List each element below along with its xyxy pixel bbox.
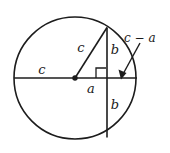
label-c-minus-a: c − a bbox=[124, 31, 156, 45]
label-a: a bbox=[87, 81, 95, 96]
annotation-arrow-shaft bbox=[123, 43, 141, 75]
label-b-upper: b bbox=[111, 42, 119, 57]
geometry-figure: c c b b a c − a bbox=[0, 0, 170, 153]
label-c-radius: c bbox=[77, 40, 85, 55]
right-angle-marker bbox=[96, 68, 106, 78]
circle-geometry-diagram: c c b b a c − a bbox=[0, 0, 170, 153]
label-b-lower: b bbox=[111, 97, 119, 112]
circle-center-dot bbox=[72, 75, 77, 80]
label-c-left: c bbox=[38, 62, 46, 77]
